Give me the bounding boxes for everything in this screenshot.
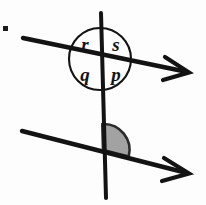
angle-label-p: p xyxy=(109,64,121,85)
angle-label-s: s xyxy=(111,34,119,55)
angle-label-q: q xyxy=(80,64,90,85)
stray-ink-dot xyxy=(3,26,8,31)
angle-label-r: r xyxy=(81,34,89,55)
geometry-canvas: r s q p xyxy=(0,0,206,205)
geometry-figure: r s q p xyxy=(0,0,206,205)
